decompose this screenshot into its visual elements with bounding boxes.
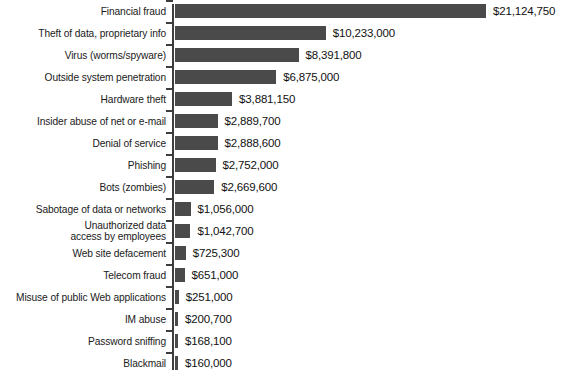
bar-row: Phishing$2,752,000 xyxy=(0,154,574,176)
bar-chart: Financial fraud$21,124,750Theft of data,… xyxy=(0,0,574,379)
bar xyxy=(175,224,190,238)
axis-tick xyxy=(166,308,173,310)
category-label: Unauthorized data access by employees xyxy=(71,220,167,242)
value-label: $1,042,700 xyxy=(197,224,253,238)
value-label: $168,100 xyxy=(185,334,232,348)
axis-tick xyxy=(166,220,173,222)
category-label: IM abuse xyxy=(125,308,166,330)
axis-tick xyxy=(166,176,173,178)
category-label: Blackmail xyxy=(123,352,166,374)
bar-and-value: $2,752,000 xyxy=(175,158,279,172)
axis-tick xyxy=(166,198,173,200)
bar xyxy=(175,26,326,40)
value-label: $6,875,000 xyxy=(283,70,339,84)
bar-row: Unauthorized data access by employees$1,… xyxy=(0,220,574,242)
bar-row: Virus (worms/spyware)$8,391,800 xyxy=(0,44,574,66)
bar-and-value: $10,233,000 xyxy=(175,26,395,40)
category-label: Financial fraud xyxy=(101,0,166,22)
category-label: Password sniffing xyxy=(88,330,166,352)
category-label: Sabotage of data or networks xyxy=(36,198,166,220)
category-label: Telecom fraud xyxy=(103,264,166,286)
bar-row: Web site defacement$725,300 xyxy=(0,242,574,264)
category-label: Virus (worms/spyware) xyxy=(65,44,166,66)
bar xyxy=(175,180,214,194)
bar-and-value: $200,700 xyxy=(175,312,232,326)
axis-tick xyxy=(166,286,173,288)
category-label: Misuse of public Web applications xyxy=(16,286,166,308)
bar-and-value: $2,888,600 xyxy=(175,136,281,150)
bar xyxy=(175,70,276,84)
bar-and-value: $1,056,000 xyxy=(175,202,254,216)
bar-row: Password sniffing$168,100 xyxy=(0,330,574,352)
bar-row: Denial of service$2,888,600 xyxy=(0,132,574,154)
bar xyxy=(175,246,186,260)
bar-and-value: $2,889,700 xyxy=(175,114,281,128)
bar-row: Misuse of public Web applications$251,00… xyxy=(0,286,574,308)
bar-row: Telecom fraud$651,000 xyxy=(0,264,574,286)
bar-and-value: $251,000 xyxy=(175,290,232,304)
category-label: Bots (zombies) xyxy=(99,176,166,198)
axis-tick xyxy=(166,110,173,112)
value-label: $200,700 xyxy=(185,312,232,326)
bar xyxy=(175,48,299,62)
bar xyxy=(175,268,185,282)
bar xyxy=(175,92,232,106)
axis-tick xyxy=(166,22,173,24)
bar-and-value: $168,100 xyxy=(175,334,232,348)
value-label: $2,669,600 xyxy=(221,180,277,194)
bar-and-value: $1,042,700 xyxy=(175,224,253,238)
value-label: $8,391,800 xyxy=(306,48,362,62)
axis-tick xyxy=(166,0,173,2)
axis-tick xyxy=(166,154,173,156)
bar xyxy=(175,290,179,304)
value-label: $21,124,750 xyxy=(493,4,555,18)
bar-row: Sabotage of data or networks$1,056,000 xyxy=(0,198,574,220)
bar-and-value: $3,881,150 xyxy=(175,92,295,106)
axis-tick xyxy=(166,132,173,134)
bar xyxy=(175,136,218,150)
bar xyxy=(175,114,218,128)
bar xyxy=(175,4,486,18)
category-label: Phishing xyxy=(128,154,166,176)
value-label: $2,752,000 xyxy=(223,158,279,172)
axis-tick xyxy=(166,264,173,266)
bar-row: IM abuse$200,700 xyxy=(0,308,574,330)
bar-row: Hardware theft$3,881,150 xyxy=(0,88,574,110)
bar xyxy=(175,312,178,326)
value-label: $651,000 xyxy=(192,268,239,282)
value-label: $160,000 xyxy=(185,356,232,370)
category-label: Web site defacement xyxy=(72,242,166,264)
category-label: Outside system penetration xyxy=(45,66,166,88)
category-label: Hardware theft xyxy=(101,88,166,110)
axis-tick xyxy=(166,352,173,354)
bar-row: Financial fraud$21,124,750 xyxy=(0,0,574,22)
bar-and-value: $651,000 xyxy=(175,268,238,282)
bar-and-value: $725,300 xyxy=(175,246,239,260)
bar xyxy=(175,158,216,172)
value-label: $1,056,000 xyxy=(198,202,254,216)
bar-and-value: $160,000 xyxy=(175,356,232,370)
value-label: $10,233,000 xyxy=(333,26,395,40)
value-label: $725,300 xyxy=(193,246,240,260)
value-label: $3,881,150 xyxy=(239,92,295,106)
category-label: Theft of data, proprietary info xyxy=(38,22,166,44)
bar-and-value: $8,391,800 xyxy=(175,48,362,62)
axis-tick xyxy=(166,44,173,46)
bar xyxy=(175,356,178,370)
bar-row: Blackmail$160,000 xyxy=(0,352,574,374)
axis-tick xyxy=(166,330,173,332)
bar-rows-container: Financial fraud$21,124,750Theft of data,… xyxy=(0,0,574,374)
value-label: $2,888,600 xyxy=(225,136,281,150)
bar xyxy=(175,202,191,216)
bar-and-value: $2,669,600 xyxy=(175,180,277,194)
axis-tick xyxy=(166,66,173,68)
bar-and-value: $6,875,000 xyxy=(175,70,339,84)
axis-tick xyxy=(166,242,173,244)
bar-row: Bots (zombies)$2,669,600 xyxy=(0,176,574,198)
value-label: $2,889,700 xyxy=(225,114,281,128)
bar-row: Insider abuse of net or e-mail$2,889,700 xyxy=(0,110,574,132)
category-label: Denial of service xyxy=(92,132,166,154)
bar-row: Theft of data, proprietary info$10,233,0… xyxy=(0,22,574,44)
category-label: Insider abuse of net or e-mail xyxy=(37,110,166,132)
axis-tick xyxy=(166,88,173,90)
